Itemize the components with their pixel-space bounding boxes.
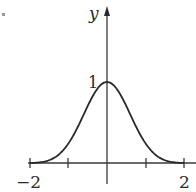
y-axis-arrow-icon	[104, 6, 110, 16]
x-tick-label-neg-2: −2	[16, 172, 41, 192]
bell-curve-chart: y 1 −2 2	[0, 0, 196, 192]
stray-dot	[2, 13, 5, 16]
y-axis-label: y	[88, 3, 99, 23]
y-tick-label-1: 1	[88, 73, 98, 92]
x-tick-label-2: 2	[179, 172, 190, 192]
